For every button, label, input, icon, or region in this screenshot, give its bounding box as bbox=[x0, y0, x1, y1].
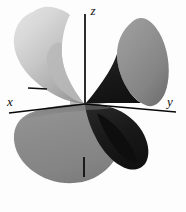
z-axis-label: z bbox=[89, 3, 95, 18]
y-axis-label: y bbox=[165, 94, 173, 109]
x-axis-back-tick bbox=[28, 88, 47, 89]
x-axis-label: x bbox=[6, 94, 13, 109]
surface-plot-canvas: x y z bbox=[0, 0, 186, 212]
surface-plot-figure: x y z bbox=[0, 0, 186, 212]
